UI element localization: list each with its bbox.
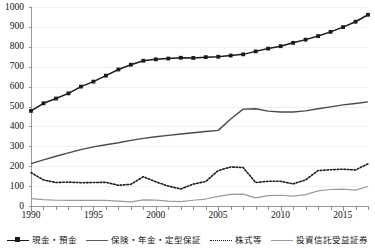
y-label-400: 400 (10, 122, 24, 132)
x-label-2000: 2000 (136, 210, 176, 220)
data-point-marker (54, 97, 58, 101)
y-label-900: 900 (10, 22, 24, 32)
data-point-marker (204, 55, 208, 59)
y-label-700: 700 (10, 62, 24, 72)
legend-label-insurance: 保険・年金・定型保証 (111, 236, 201, 245)
data-point-marker (254, 49, 258, 53)
x-tick-1993 (68, 206, 69, 210)
data-point-marker (104, 74, 108, 78)
x-tick-2008 (256, 206, 257, 210)
x-tick-2012 (306, 206, 307, 210)
legend-item-insurance[interactable]: 保険・年金・定型保証 (86, 236, 201, 245)
data-point-marker (141, 59, 145, 63)
series-line-insurance (31, 102, 368, 164)
legend-label-stocks: 株式等 (235, 236, 262, 245)
x-tick-2007 (243, 206, 244, 210)
chart-legend: 現金・預金 保険・年金・定型保証 株式等 投資信託受益証券 (0, 232, 375, 248)
data-point-marker (216, 55, 220, 59)
series-line-cash (31, 15, 368, 111)
x-label-1990: 1990 (11, 210, 51, 220)
legend-item-cash[interactable]: 現金・預金 (7, 236, 77, 245)
data-point-marker (366, 13, 370, 17)
legend-item-invtrust[interactable]: 投資信託受益証券 (271, 236, 368, 245)
y-label-100: 100 (10, 182, 24, 192)
x-tick-1997 (118, 206, 119, 210)
legend-label-invtrust: 投資信託受益証券 (296, 236, 368, 245)
y-label-800: 800 (10, 42, 24, 52)
y-label-1000: 1000 (5, 3, 24, 13)
x-tick-2003 (193, 206, 194, 210)
x-tick-2013 (318, 206, 319, 210)
data-point-marker (229, 54, 233, 58)
data-point-marker (129, 63, 133, 67)
x-tick-2017 (368, 206, 369, 210)
data-point-marker (316, 34, 320, 38)
data-point-marker (29, 109, 33, 113)
legend-swatch-stocks-icon (210, 236, 232, 245)
x-label-2005: 2005 (198, 210, 238, 220)
data-point-marker (304, 38, 308, 42)
legend-swatch-insurance-icon (86, 236, 108, 245)
legend-swatch-invtrust-icon (271, 236, 293, 245)
series-line-invtrust (31, 187, 368, 202)
data-point-marker (154, 57, 158, 61)
x-label-2010: 2010 (260, 210, 300, 220)
x-label-1995: 1995 (73, 210, 113, 220)
data-point-marker (241, 52, 245, 56)
x-tick-1998 (131, 206, 132, 210)
series-line-stocks (31, 164, 368, 189)
y-label-500: 500 (10, 102, 24, 112)
series-markers-cash (29, 13, 370, 113)
chart-container: 1000 900 800 700 600 500 400 300 200 100… (0, 0, 375, 248)
y-label-200: 200 (10, 162, 24, 172)
series-layer (31, 7, 368, 206)
data-point-marker (266, 47, 270, 51)
legend-label-cash: 現金・預金 (32, 236, 77, 245)
data-point-marker (354, 20, 358, 24)
data-point-marker (179, 56, 183, 60)
data-point-marker (279, 44, 283, 48)
data-point-marker (42, 101, 46, 105)
legend-swatch-cash-icon (7, 236, 29, 245)
data-point-marker (92, 80, 96, 84)
data-point-marker (166, 57, 170, 61)
data-point-marker (79, 85, 83, 89)
legend-item-stocks[interactable]: 株式等 (210, 236, 262, 245)
x-label-2015: 2015 (323, 210, 363, 220)
data-point-marker (291, 41, 295, 45)
data-point-marker (116, 68, 120, 72)
y-label-600: 600 (10, 82, 24, 92)
x-tick-1992 (56, 206, 57, 210)
data-point-marker (191, 56, 195, 60)
y-label-300: 300 (10, 142, 24, 152)
x-tick-2002 (181, 206, 182, 210)
data-point-marker (67, 91, 71, 95)
data-point-marker (341, 25, 345, 29)
data-point-marker (329, 30, 333, 34)
